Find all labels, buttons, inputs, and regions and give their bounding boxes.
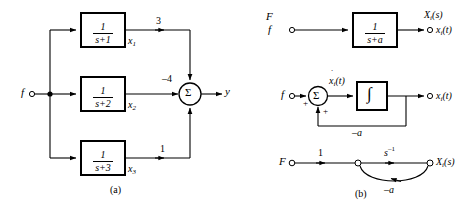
panel-a-input-label: f <box>21 87 24 98</box>
panel-a-block-1-expression: 1 s+1 <box>92 22 114 45</box>
panel-b-mid-output-label: xi(t) <box>436 91 452 103</box>
block-2-numerator: 1 <box>101 86 106 96</box>
panel-b-integrator-block <box>357 82 387 110</box>
panel-b-sfg-source-node <box>289 160 295 166</box>
panel-b-top-input-upper-label: F <box>266 11 273 22</box>
block-1-denominator: s+1 <box>95 35 111 45</box>
panel-a-input-node <box>29 91 34 96</box>
block-2-denominator: s+2 <box>95 99 111 109</box>
panel-b-mid-input-label: f <box>281 89 284 100</box>
panel-a-output-label: y <box>225 86 230 97</box>
panel-b-sfg-feedback-arc <box>360 166 428 181</box>
caption-b: (b) <box>355 188 367 199</box>
panel-a-gain-label-minus4: –4 <box>162 74 172 84</box>
block-1-numerator: 1 <box>101 22 106 32</box>
panel-b-sign-left: + <box>303 99 308 108</box>
panel-a-state-label-x3: x3 <box>128 164 136 176</box>
panel-b-top-output-lower-label: xi(t) <box>436 25 452 37</box>
panel-b-sfg-middle-node <box>355 160 361 166</box>
panel-b-integrator-symbol: ∫ <box>367 85 372 102</box>
panel-b-sign-bottom: + <box>323 107 328 116</box>
panel-a-block-3-expression: 1 s+3 <box>92 150 114 173</box>
panel-a-state-label-x1: x1 <box>128 36 136 48</box>
panel-b-sfg-source-label: F <box>279 156 286 167</box>
panel-b-derivative-label: x˙i(t) <box>329 76 345 88</box>
panel-a-sum-symbol: Σ <box>185 87 191 98</box>
figure-canvas <box>0 0 460 204</box>
panel-b-sfg-gain-sinv: s–1 <box>384 146 395 158</box>
panel-b-sfg-sink-label: Xi(s) <box>436 157 455 169</box>
panel-b-top-denominator: s+a <box>367 35 383 45</box>
panel-b-sfg-sink-node <box>427 160 433 166</box>
panel-b-top-output-node <box>427 27 432 32</box>
block-3-denominator: s+3 <box>95 163 111 173</box>
panel-b-sum-symbol: Σ <box>313 90 319 101</box>
panel-a-block-2-expression: 1 s+2 <box>92 86 114 109</box>
panel-b-top-input-node <box>289 27 294 32</box>
panel-b-top-block-expression: 1 s+a <box>364 22 386 45</box>
panel-b-top-output-upper-label: Xi(s) <box>424 10 443 22</box>
panel-b-sfg-gain-1: 1 <box>318 148 323 158</box>
panel-a-gain-label-1: 1 <box>160 144 165 154</box>
panel-b-mid-input-node <box>289 93 294 98</box>
panel-b-mid-output-node <box>427 93 432 98</box>
caption-a: (a) <box>110 184 121 195</box>
panel-a-gain-label-3: 3 <box>156 16 161 26</box>
panel-a-state-label-x2: x2 <box>128 100 136 112</box>
panel-b-sfg-feedback-gain: –a <box>384 185 394 195</box>
block-3-numerator: 1 <box>101 150 106 160</box>
panel-b-top-numerator: 1 <box>373 22 378 32</box>
panel-b-mid-feedback-gain: –a <box>352 128 362 138</box>
panel-b-top-input-lower-label: f <box>268 24 271 35</box>
